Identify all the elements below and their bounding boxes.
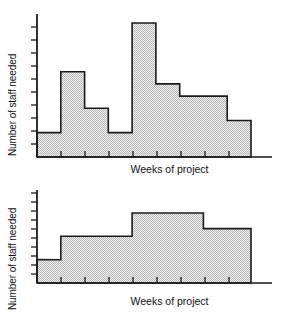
staff-histogram-area-top	[37, 23, 251, 157]
staff-histogram-area-bottom	[37, 213, 251, 283]
y-axis-label-top: Number of staff needed	[8, 16, 18, 156]
chart-panel-bottom: Number of staff needed Weeks of project	[0, 182, 287, 318]
chart-panel-top: Number of staff needed Weeks of project	[0, 0, 287, 182]
y-axis-label-bottom: Number of staff needed	[8, 192, 18, 310]
resource-histogram-figure: Number of staff needed Weeks of project	[0, 0, 287, 318]
x-axis-label-bottom: Weeks of project	[0, 295, 287, 307]
x-axis-label-top: Weeks of project	[0, 163, 287, 175]
chart-top-plot	[0, 0, 287, 182]
